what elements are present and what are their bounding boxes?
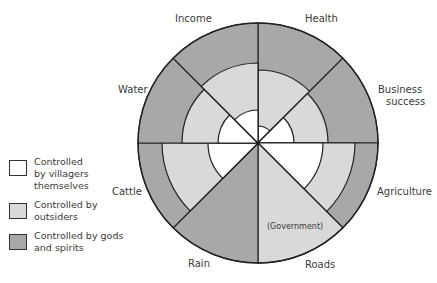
label-health: Health <box>305 13 338 25</box>
label-roads-note: (Government) <box>267 221 323 233</box>
legend-text: Controlled by villagers themselves <box>34 156 92 192</box>
legend-item-outsiders: Controlled by outsiders <box>9 199 124 223</box>
center-dot <box>256 141 260 145</box>
legend-text: Controlled by gods and spirits <box>34 230 124 254</box>
legend: Controlled by villagers themselves Contr… <box>9 156 124 261</box>
legend-swatch-dark-gray <box>9 234 27 250</box>
legend-text: Controlled by outsiders <box>34 199 100 223</box>
label-business-line2: success <box>386 96 425 108</box>
legend-item-villagers: Controlled by villagers themselves <box>9 156 124 192</box>
label-rain: Rain <box>188 258 210 270</box>
label-roads: Roads <box>305 259 335 271</box>
legend-item-gods: Controlled by gods and spirits <box>9 230 124 254</box>
label-agriculture: Agriculture <box>377 186 432 198</box>
label-business-line1: Business <box>378 84 422 96</box>
legend-swatch-light-gray <box>9 203 27 219</box>
label-income: Income <box>175 13 212 25</box>
label-water: Water <box>118 84 148 96</box>
legend-swatch-white <box>9 160 27 176</box>
